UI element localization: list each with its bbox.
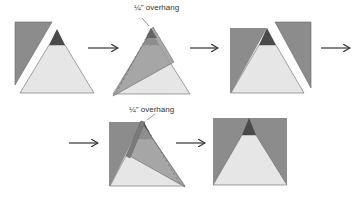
overhang-label-top: ¼" overhang — [134, 3, 179, 12]
overhang-label-bottom: ¼" overhang — [129, 105, 174, 114]
quilt-block-diagram: ¼" overhang ¼" overhang — [0, 0, 355, 197]
center-triangle-tip — [49, 29, 65, 45]
step-1 — [15, 22, 94, 93]
step-4: ¼" overhang — [109, 105, 185, 187]
overhang-pointer-icon — [147, 114, 155, 120]
overhang-pointer-icon — [142, 18, 149, 26]
step-2: ¼" overhang — [113, 3, 190, 96]
step-5 — [213, 118, 287, 185]
step-3 — [230, 22, 311, 93]
